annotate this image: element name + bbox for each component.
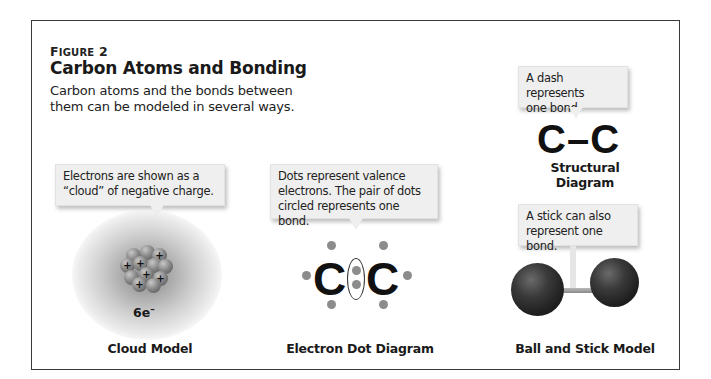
cloud-model-label: Cloud Model: [85, 341, 215, 356]
electron-count: 6e–: [133, 304, 155, 320]
carbon-atom-ball-left: [511, 263, 564, 316]
valence-electron-dot: [403, 271, 412, 280]
ball-and-stick-callout: A stick can also represent one bond.: [518, 204, 638, 246]
callout-line: represent one bond.: [526, 224, 630, 254]
caption-line: Carbon atoms and the bonds between: [50, 83, 320, 99]
callout-pointer: [349, 218, 363, 230]
valence-electron-dot: [302, 271, 311, 280]
valence-electron-dot: [379, 241, 388, 250]
callout-line: A dash represents: [526, 71, 620, 101]
proton-icon: +: [132, 277, 147, 292]
figure-number: 2: [99, 44, 108, 59]
carbon-symbol-right: C: [366, 256, 399, 302]
cloud-model-callout: Electrons are shown as a “cloud” of nega…: [55, 164, 225, 206]
figure-label-rest: IGURE: [59, 47, 95, 58]
carbon-nucleus-icon: + + + + + +: [118, 244, 174, 292]
figure-caption: Carbon atoms and the bonds between them …: [50, 83, 320, 115]
callout-pointer: [570, 246, 576, 288]
structural-callout: A dash represents one bond.: [518, 66, 628, 108]
electron-dot-callout: Dots represent valence electrons. The pa…: [270, 164, 438, 219]
callout-line: Dots represent valence: [278, 169, 430, 184]
structural-formula: C–C: [537, 117, 620, 161]
figure-label-prefix: F: [50, 44, 59, 59]
callout-line: “cloud” of negative charge.: [63, 184, 217, 199]
callout-line: Electrons are shown as a: [63, 169, 217, 184]
ball-and-stick-label: Ball and Stick Model: [510, 341, 660, 356]
figure-title: Carbon Atoms and Bonding: [50, 58, 307, 78]
valence-electron-dot: [327, 241, 336, 250]
carbon-symbol-left: C: [313, 256, 346, 302]
caption-line: them can be modeled in several ways.: [50, 99, 320, 115]
carbon-atom-ball-right: [590, 258, 639, 307]
callout-line: electrons. The pair of dots: [278, 184, 430, 199]
callout-line: A stick can also: [526, 209, 630, 224]
structural-diagram-label: Structural Diagram: [520, 160, 650, 190]
figure-label: FIGURE 2: [50, 44, 108, 59]
bond-pair-circle: [347, 258, 365, 300]
electron-dot-label: Electron Dot Diagram: [285, 341, 435, 356]
